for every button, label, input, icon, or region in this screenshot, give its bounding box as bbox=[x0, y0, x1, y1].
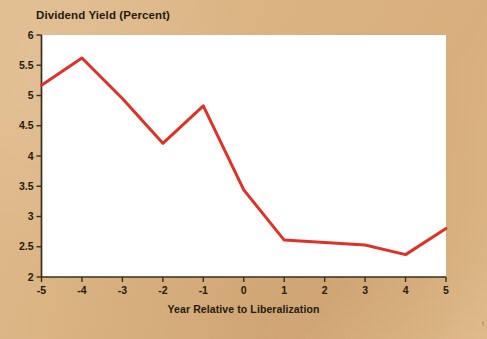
y-axis-tick-label: 3 bbox=[28, 210, 34, 222]
chart-page: Dividend Yield (Percent) 22.533.544.555.… bbox=[0, 0, 487, 339]
x-axis-tick-label: 4 bbox=[403, 284, 409, 296]
x-axis-tick-label: 1 bbox=[281, 284, 287, 296]
y-axis-tick-label: 4.5 bbox=[19, 119, 34, 131]
corner-mark: ( bbox=[482, 320, 484, 326]
y-axis-tick-label: 2.5 bbox=[19, 240, 34, 252]
y-axis-tick-label: 2 bbox=[28, 271, 34, 283]
y-axis-tick-label: 4 bbox=[28, 150, 34, 162]
y-axis-tick-label: 5 bbox=[28, 89, 34, 101]
x-axis-tick-label: -5 bbox=[37, 284, 46, 296]
x-axis-tick-label: -4 bbox=[77, 284, 86, 296]
x-axis-tick-label: -1 bbox=[199, 284, 208, 296]
x-axis-ticks: -5-4-3-2-1012345 bbox=[37, 277, 449, 296]
y-axis-tick-label: 6 bbox=[28, 29, 34, 41]
x-axis-tick-label: -3 bbox=[118, 284, 127, 296]
plot-area-background bbox=[42, 35, 447, 277]
x-axis-tick-label: 5 bbox=[443, 284, 449, 296]
y-axis-tick-label: 5.5 bbox=[19, 59, 34, 71]
x-axis-title: Year Relative to Liberalization bbox=[0, 303, 487, 315]
y-axis-ticks: 22.533.544.555.56 bbox=[19, 29, 42, 283]
x-axis-tick-label: 2 bbox=[322, 284, 328, 296]
x-axis-tick-label: -2 bbox=[158, 284, 167, 296]
y-axis-tick-label: 3.5 bbox=[19, 180, 34, 192]
x-axis-tick-label: 0 bbox=[241, 284, 247, 296]
x-axis-tick-label: 3 bbox=[362, 284, 368, 296]
line-chart-plot: 22.533.544.555.56 -5-4-3-2-1012345 bbox=[0, 0, 487, 339]
